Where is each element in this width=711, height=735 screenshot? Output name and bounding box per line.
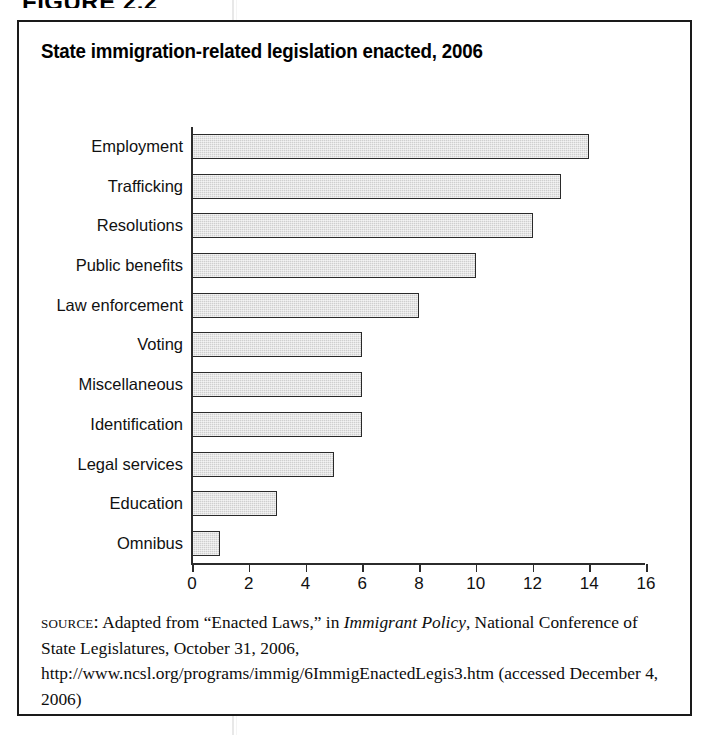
bar-row: Miscellaneous bbox=[192, 365, 646, 405]
x-axis-tick-mark bbox=[419, 564, 421, 572]
bar bbox=[192, 174, 561, 199]
x-axis-tick-label: 2 bbox=[244, 574, 253, 594]
bar-category-label: Identification bbox=[90, 412, 183, 437]
x-axis-tick-label: 16 bbox=[637, 574, 656, 594]
bar bbox=[192, 332, 362, 357]
bar-category-label: Miscellaneous bbox=[78, 372, 183, 397]
x-axis-tick-mark bbox=[306, 564, 308, 572]
source-label: Source: bbox=[41, 612, 99, 632]
x-axis-tick-mark bbox=[589, 564, 591, 572]
bar-category-label: Omnibus bbox=[117, 531, 183, 556]
bar-category-label: Public benefits bbox=[76, 253, 183, 278]
bar bbox=[192, 372, 362, 397]
bar bbox=[192, 452, 334, 477]
bar-row: Legal services bbox=[192, 445, 646, 485]
x-axis-tick-mark bbox=[192, 564, 194, 572]
bar-row: Identification bbox=[192, 405, 646, 445]
bar bbox=[192, 531, 220, 556]
bar-row: Employment bbox=[192, 127, 646, 167]
x-axis-tick-label: 12 bbox=[523, 574, 542, 594]
x-axis-tick-label: 0 bbox=[187, 574, 196, 594]
bar bbox=[192, 412, 362, 437]
source-text-lead: Adapted from “Enacted Laws,” in bbox=[99, 612, 344, 632]
bar bbox=[192, 134, 589, 159]
bar-row: Omnibus bbox=[192, 524, 646, 564]
bar bbox=[192, 491, 277, 516]
bar-category-label: Voting bbox=[137, 332, 183, 357]
bar bbox=[192, 253, 476, 278]
bar-row: Education bbox=[192, 484, 646, 524]
x-axis-tick-mark bbox=[476, 564, 478, 572]
bar-category-label: Legal services bbox=[78, 452, 183, 477]
x-axis-tick-mark bbox=[533, 564, 535, 572]
bar-category-label: Law enforcement bbox=[56, 293, 183, 318]
source-publication-title: Immigrant Policy bbox=[344, 612, 466, 632]
bar-row: Resolutions bbox=[192, 206, 646, 246]
bar-category-label: Trafficking bbox=[108, 174, 183, 199]
x-axis-tick-mark bbox=[362, 564, 364, 572]
bar-row: Trafficking bbox=[192, 167, 646, 207]
x-axis-tick-mark bbox=[646, 564, 648, 572]
x-axis-tick-mark bbox=[249, 564, 251, 572]
source-note: Source: Adapted from “Enacted Laws,” in … bbox=[41, 610, 671, 712]
bar-row: Voting bbox=[192, 325, 646, 365]
bar-category-label: Employment bbox=[91, 134, 183, 159]
bar-chart-plot-area: EmploymentTraffickingResolutionsPublic b… bbox=[19, 22, 694, 592]
figure-frame: State immigration-related legislation en… bbox=[17, 20, 692, 716]
x-axis-tick-label: 4 bbox=[301, 574, 310, 594]
bar-row: Law enforcement bbox=[192, 286, 646, 326]
x-axis-tick-label: 8 bbox=[414, 574, 423, 594]
bar-category-label: Education bbox=[110, 491, 183, 516]
x-axis-ticks: 0246810121416 bbox=[192, 564, 646, 598]
x-axis-tick-label: 14 bbox=[580, 574, 599, 594]
bar bbox=[192, 213, 533, 238]
bar-category-label: Resolutions bbox=[97, 213, 183, 238]
x-axis-tick-label: 10 bbox=[466, 574, 485, 594]
bar-row: Public benefits bbox=[192, 246, 646, 286]
bar-series: EmploymentTraffickingResolutionsPublic b… bbox=[192, 127, 646, 564]
figure-caption: FIGURE 2.2 bbox=[22, 0, 158, 8]
x-axis-tick-label: 6 bbox=[358, 574, 367, 594]
bar bbox=[192, 293, 419, 318]
